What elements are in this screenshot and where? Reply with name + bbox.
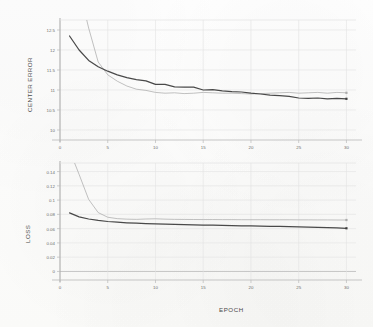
center-error-y-axis-title: CENTER ERROR: [26, 57, 33, 112]
y-tick-label: 0.1: [49, 198, 56, 203]
y-tick-label: 12: [50, 48, 55, 53]
x-tick-label: 5: [107, 285, 110, 290]
series-end-marker: [345, 227, 347, 229]
x-tick-label: 30: [344, 145, 349, 150]
y-tick-label: 0.08: [46, 212, 55, 217]
x-tick-label: 20: [249, 285, 254, 290]
loss-series-light: [70, 155, 347, 220]
x-tick-label: 10: [153, 145, 158, 150]
series-end-marker: [345, 219, 347, 221]
x-tick-label: 30: [344, 285, 349, 290]
center-error-series-dark: [70, 36, 347, 99]
epoch-x-axis-title: EPOCH: [219, 306, 244, 313]
x-tick-label: 25: [296, 285, 301, 290]
x-tick-label: 5: [107, 145, 110, 150]
x-tick-label: 0: [59, 285, 62, 290]
y-tick-label: 0.06: [46, 227, 55, 232]
x-tick-label: 10: [153, 285, 158, 290]
y-tick-label: 0.12: [46, 184, 55, 189]
loss-y-axis-title: LOSS: [24, 225, 31, 243]
x-tick-label: 0: [59, 145, 62, 150]
center-error-chart-panel: 1010.51111.51212.5051015202530: [0, 0, 373, 155]
y-tick-label: 11.5: [47, 68, 56, 73]
y-tick-label: 11: [50, 88, 55, 93]
loss-chart-panel: 00.020.040.060.080.10.120.14051015202530: [0, 155, 373, 305]
center-error-series-light: [70, 0, 347, 94]
y-tick-label: 0.02: [46, 255, 55, 260]
loss-series-dark: [70, 213, 347, 228]
loss-chart: 00.020.040.060.080.10.120.14051015202530: [0, 155, 373, 305]
y-tick-label: 0.14: [46, 170, 55, 175]
y-tick-label: 0: [53, 269, 56, 274]
y-tick-label: 0.04: [46, 241, 55, 246]
x-tick-label: 25: [296, 145, 301, 150]
series-end-marker: [345, 92, 347, 94]
x-tick-label: 20: [249, 145, 254, 150]
x-tick-label: 15: [201, 145, 206, 150]
y-tick-label: 12.5: [46, 28, 55, 33]
series-end-marker: [345, 98, 347, 100]
y-tick-label: 10.5: [46, 108, 55, 113]
center-error-chart: 1010.51111.51212.5051015202530: [0, 0, 373, 155]
y-tick-label: 10: [50, 128, 55, 133]
x-tick-label: 15: [201, 285, 206, 290]
